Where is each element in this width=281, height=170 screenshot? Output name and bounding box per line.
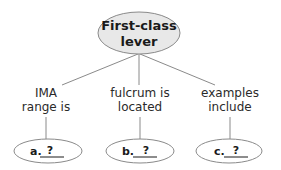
branch-b-label-2: located — [118, 100, 162, 114]
branch-c-label-1: examples — [201, 86, 259, 100]
root-node: First-class lever — [98, 12, 180, 54]
leaf-a-blank: ? — [47, 144, 53, 157]
branch-a-label-2: range is — [22, 100, 70, 114]
root-line2: lever — [121, 34, 159, 49]
branch-c-label-2: include — [208, 100, 251, 114]
leaf-b-blank: ? — [143, 144, 149, 157]
root-line1: First-class — [101, 18, 177, 33]
leaf-node-c: c. ? — [196, 139, 262, 163]
connector-c — [140, 54, 215, 85]
concept-map: First-class lever IMA range is fulcrum i… — [0, 0, 281, 170]
leaf-c-prefix: c. — [214, 145, 225, 158]
branch-a-label-1: IMA — [35, 86, 58, 100]
leaf-b-prefix: b. — [122, 145, 134, 158]
connector-a — [62, 54, 138, 85]
leaf-a-prefix: a. — [30, 145, 42, 158]
leaf-node-b: b. ? — [106, 139, 174, 163]
branch-b-label-1: fulcrum is — [110, 86, 169, 100]
leaf-node-a: a. ? — [14, 139, 82, 163]
leaf-c-blank: ? — [233, 144, 239, 157]
